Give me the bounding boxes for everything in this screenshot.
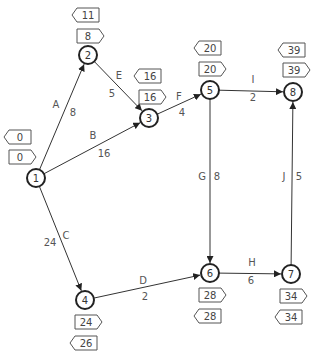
event-node-4: 4 [76,291,94,309]
earliest-time-tag-node-4: 24 [75,315,102,329]
earliest-time-tag-node-2: 8 [77,29,104,43]
activity-edge-d: D2 [94,275,200,302]
tag-value: 8 [85,31,91,42]
activity-label: G [198,171,206,182]
activity-label: A [53,99,60,110]
node-number: 3 [146,113,152,124]
tag-value: 39 [288,65,301,76]
latest-time-tag-node-2: 11 [72,8,99,22]
tag-value: 0 [17,132,23,143]
tag-value: 16 [144,92,157,103]
tag-value: 28 [204,290,217,301]
activity-edge-c: C24 [39,186,81,290]
tag-value: 28 [204,311,217,322]
activity-edge-h: H6 [219,257,281,286]
node-number: 1 [33,173,39,184]
tag-value: 34 [285,291,298,302]
activity-duration: 6 [248,275,254,286]
earliest-time-tag-node-1: 0 [9,150,36,164]
activity-duration: 8 [70,107,76,118]
activity-duration: 5 [109,88,115,99]
tag-value: 20 [204,64,217,75]
node-number: 8 [290,87,296,98]
activity-label: F [176,91,182,102]
latest-time-tag-node-6: 28 [194,309,221,323]
time-tags-layer: 00811161624262020282834343939 [4,8,310,350]
earliest-time-tag-node-5: 20 [199,62,226,76]
activity-edge-j: J5 [282,102,303,265]
node-number: 6 [207,268,213,279]
activity-duration: 2 [250,92,256,103]
activity-edge-b: B16 [44,123,140,174]
activity-edge-i: I2 [219,74,283,103]
edge-arrow [40,64,85,170]
activity-label: H [248,257,256,268]
latest-time-tag-node-8: 39 [278,43,305,57]
node-number: 5 [207,85,213,96]
activity-duration: 8 [214,171,220,182]
tag-value: 0 [17,152,23,163]
earliest-time-tag-node-7: 34 [280,289,307,303]
edge-arrow [94,62,142,111]
tag-value: 24 [80,317,93,328]
event-node-3: 3 [140,109,158,127]
node-number: 2 [85,50,91,61]
latest-time-tag-node-3: 16 [134,69,161,83]
nodes-layer: 12345678 [27,46,302,309]
activity-label: E [116,70,122,81]
edge-arrow [219,273,281,274]
node-number: 4 [82,295,88,306]
latest-time-tag-node-1: 0 [4,130,31,144]
activity-edge-a: A8 [40,64,85,170]
activity-edge-g: G8 [198,99,220,263]
earliest-time-tag-node-8: 39 [283,63,310,77]
event-node-5: 5 [201,81,219,99]
activity-duration: 5 [296,171,302,182]
activity-duration: 24 [44,237,57,248]
event-node-6: 6 [201,264,219,282]
activity-label: B [90,130,97,141]
earliest-time-tag-node-3: 16 [139,90,166,104]
tag-value: 16 [144,71,157,82]
edge-arrow [291,102,293,265]
activity-label: C [63,230,70,241]
activity-label: J [282,171,286,182]
activity-label: I [252,74,255,85]
tag-value: 39 [288,45,301,56]
activity-duration: 16 [98,148,111,159]
latest-time-tag-node-7: 34 [275,310,302,324]
activity-duration: 4 [179,107,185,118]
activity-edge-e: E5 [94,62,142,111]
network-diagram: A8B16C24E5F4I2G8J5D2H6 00811161624262020… [0,0,318,358]
edges-layer: A8B16C24E5F4I2G8J5D2H6 [39,62,302,303]
earliest-time-tag-node-6: 28 [199,288,226,302]
tag-value: 26 [80,338,93,349]
tag-value: 11 [82,10,95,21]
tag-value: 34 [285,312,298,323]
tag-value: 20 [204,43,217,54]
activity-duration: 2 [142,291,148,302]
event-node-2: 2 [79,46,97,64]
node-number: 7 [288,269,294,280]
latest-time-tag-node-4: 26 [70,336,97,350]
event-node-8: 8 [284,83,302,101]
event-node-7: 7 [282,265,300,283]
event-node-1: 1 [27,169,45,187]
latest-time-tag-node-5: 20 [194,41,221,55]
activity-label: D [139,275,147,286]
